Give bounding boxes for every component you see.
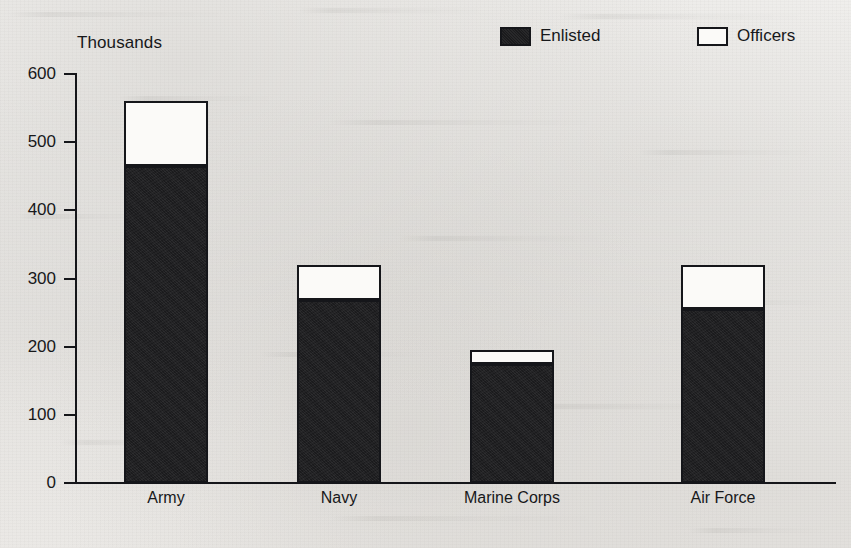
y-tick-600 (64, 73, 77, 75)
x-axis-label-air-force: Air Force (663, 489, 783, 507)
legend-item-enlisted: Enlisted (500, 26, 600, 46)
y-tick-label-0: 0 (0, 473, 56, 493)
bar-segment-officers (470, 350, 554, 364)
legend-swatch-officers-icon (697, 27, 728, 46)
bar-segment-officers (681, 265, 765, 309)
stacked-bar-chart: Thousands 0100200300400500600 ArmyNavyMa… (0, 0, 851, 548)
bar-segment-enlisted (297, 300, 381, 483)
legend-label-officers: Officers (737, 26, 795, 46)
bar-segment-officers (124, 101, 208, 166)
bar-segment-enlisted (681, 309, 765, 483)
y-tick-label-400: 400 (0, 200, 56, 220)
y-tick-500 (64, 141, 77, 143)
y-tick-label-300: 300 (0, 269, 56, 289)
x-axis-label-army: Army (106, 489, 226, 507)
legend-swatch-enlisted-icon (500, 27, 531, 46)
x-axis-label-navy: Navy (279, 489, 399, 507)
y-tick-300 (64, 278, 77, 280)
y-axis-unit-label: Thousands (77, 33, 162, 53)
y-tick-0 (64, 482, 77, 484)
y-tick-100 (64, 414, 77, 416)
bar-segment-officers (297, 265, 381, 300)
bar-navy (297, 265, 381, 483)
y-tick-label-200: 200 (0, 337, 56, 357)
y-tick-label-500: 500 (0, 132, 56, 152)
bar-army (124, 101, 208, 483)
x-axis-label-marine-corps: Marine Corps (442, 489, 582, 507)
y-tick-400 (64, 209, 77, 211)
bar-air-force (681, 265, 765, 483)
legend-item-officers: Officers (697, 26, 795, 46)
bar-segment-enlisted (124, 166, 208, 483)
bar-marine-corps (470, 350, 554, 483)
y-tick-label-600: 600 (0, 64, 56, 84)
bar-segment-enlisted (470, 364, 554, 483)
y-tick-label-100: 100 (0, 405, 56, 425)
legend-label-enlisted: Enlisted (540, 26, 600, 46)
y-tick-200 (64, 346, 77, 348)
